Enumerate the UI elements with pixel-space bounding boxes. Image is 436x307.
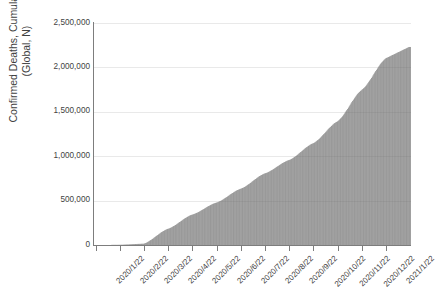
x-axis-tick-labels: 2020/1/222020/2/222020/3/222020/4/222020… [0, 0, 427, 307]
chart-container: Confirmed Deaths, Cumulative (Global, N)… [0, 0, 427, 307]
